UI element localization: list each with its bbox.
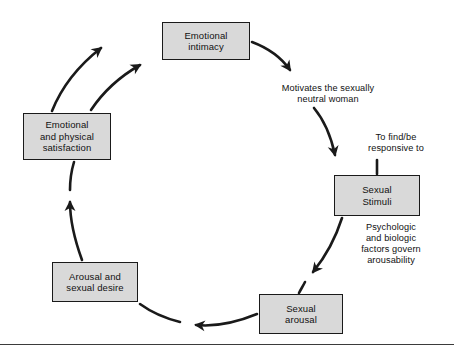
cycle-diagram-figure: Emotional intimacy Sexual Stimuli Sexual…: [0, 0, 454, 362]
arrow-satisfaction-to-intimacy-inner: [91, 65, 140, 110]
arrow-intimacy-to-stimuli-upper: [252, 42, 290, 70]
arrow-desire-to-satisfaction: [70, 202, 82, 260]
edge-label-motivates-the-sexually-neutral-woman: Motivates the sexually neutral woman: [258, 83, 398, 105]
arrow-satisfaction-to-intimacy-outer: [52, 48, 101, 111]
connector-stimuli-to-arousal-tail: [299, 282, 305, 293]
edge-label-psychologic-and-biologic-factors-govern-arousability: Psychologic and biologic factors govern …: [341, 222, 441, 266]
node-emotional-intimacy[interactable]: Emotional intimacy: [162, 22, 250, 60]
arrow-stimuli-to-arousal: [313, 218, 342, 272]
node-sexual-stimuli[interactable]: Sexual Stimuli: [334, 175, 420, 216]
node-arousal-and-sexual-desire-label: Arousal and sexual desire: [66, 271, 123, 294]
node-arousal-and-sexual-desire[interactable]: Arousal and sexual desire: [52, 262, 138, 302]
node-emotional-and-physical-satisfaction[interactable]: Emotional and physical satisfaction: [23, 113, 111, 160]
arrow-arousal-to-desire: [196, 314, 257, 326]
node-emotional-intimacy-label: Emotional intimacy: [184, 30, 227, 53]
arrow-intimacy-to-stimuli-lower: [314, 108, 335, 155]
node-sexual-arousal[interactable]: Sexual arousal: [259, 294, 343, 334]
node-sexual-stimuli-label: Sexual Stimuli: [362, 184, 392, 207]
edge-label-to-find-be-responsive-to: To find/be responsive to: [348, 132, 444, 154]
node-sexual-arousal-label: Sexual arousal: [285, 303, 317, 326]
connector-arousal-to-desire-tail: [140, 304, 180, 322]
node-emotional-and-physical-satisfaction-label: Emotional and physical satisfaction: [40, 119, 94, 154]
bottom-divider-rule: [0, 344, 454, 345]
connector-desire-to-satisfaction-tail: [70, 162, 74, 190]
